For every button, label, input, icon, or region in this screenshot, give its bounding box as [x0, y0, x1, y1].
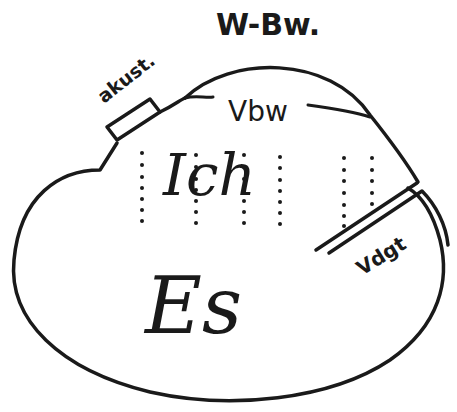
- preconscious-line-left: [185, 97, 213, 98]
- dot-column-1: [140, 151, 144, 223]
- preconscious-line-right: [308, 105, 370, 117]
- dot-column-4: [278, 155, 282, 226]
- label-repressed: Vdgt: [352, 231, 411, 280]
- outline-upper-left: [160, 98, 185, 112]
- label-perception-consciousness: W-Bw.: [216, 7, 320, 42]
- diagram-svg: W-Bw. akust. Vbw Ich Es Vdgt: [0, 0, 457, 412]
- label-id: Es: [143, 261, 242, 351]
- dot-column-6: [370, 156, 374, 206]
- label-ego: Ich: [162, 141, 256, 209]
- dot-column-5: [342, 156, 346, 228]
- freud-ego-id-diagram: W-Bw. akust. Vbw Ich Es Vdgt: [0, 0, 457, 412]
- label-preconscious: Vbw: [228, 95, 288, 128]
- acoustic-cap: [107, 99, 160, 140]
